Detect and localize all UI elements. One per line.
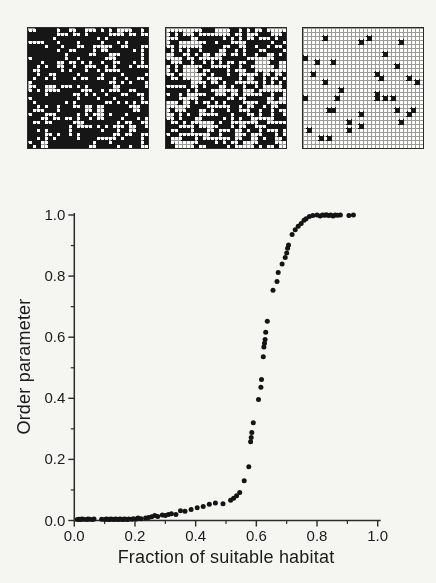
data-point: [346, 213, 351, 218]
data-point: [263, 330, 268, 335]
data-point: [259, 377, 264, 382]
data-point: [183, 509, 188, 514]
data-point: [246, 464, 251, 469]
data-point: [221, 501, 226, 506]
data-point: [280, 261, 285, 266]
data-point: [351, 213, 356, 218]
data-point: [155, 514, 160, 519]
y-tick-label: 0.0: [44, 512, 65, 529]
data-point: [173, 512, 178, 517]
scatter-plot: 0.00.20.40.60.81.00.00.20.40.60.81.0: [0, 0, 436, 583]
data-point: [284, 250, 289, 255]
x-tick-label: 0.2: [125, 527, 146, 544]
data-point: [258, 385, 263, 390]
data-point: [251, 420, 256, 425]
data-point: [261, 354, 266, 359]
data-point: [139, 516, 144, 521]
data-point: [195, 505, 200, 510]
data-point: [213, 501, 218, 506]
data-point: [201, 504, 206, 509]
x-axis-title: Fraction of suitable habitat: [60, 547, 392, 568]
y-tick-label: 1.0: [44, 206, 65, 223]
y-tick-label: 0.8: [44, 267, 65, 284]
x-tick-label: 0.0: [64, 527, 85, 544]
data-point: [242, 478, 247, 483]
x-tick-label: 1.0: [367, 527, 388, 544]
y-axis-title: Order parameter: [14, 214, 35, 520]
data-point: [189, 507, 194, 512]
y-tick-label: 0.6: [44, 328, 65, 345]
data-point: [237, 490, 242, 495]
data-point: [275, 279, 280, 284]
data-point: [286, 242, 291, 247]
data-point: [310, 213, 315, 218]
x-tick-label: 0.6: [246, 527, 267, 544]
data-point: [207, 502, 212, 507]
data-point: [249, 430, 254, 435]
y-tick-label: 0.4: [44, 389, 65, 406]
data-point: [169, 511, 174, 516]
data-point: [178, 508, 183, 513]
data-point: [256, 397, 261, 402]
data-point: [271, 288, 276, 293]
data-point: [276, 270, 281, 275]
data-point: [248, 439, 253, 444]
x-tick-label: 0.8: [307, 527, 328, 544]
data-point: [290, 232, 295, 237]
data-point: [263, 337, 268, 342]
data-point: [92, 517, 97, 522]
data-point: [265, 319, 270, 324]
data-point: [338, 213, 343, 218]
data-point: [283, 255, 288, 260]
x-tick-label: 0.4: [185, 527, 206, 544]
data-point: [249, 435, 254, 440]
y-tick-label: 0.2: [44, 450, 65, 467]
figure-page: 0.00.20.40.60.81.00.00.20.40.60.81.0 Ord…: [0, 0, 436, 583]
